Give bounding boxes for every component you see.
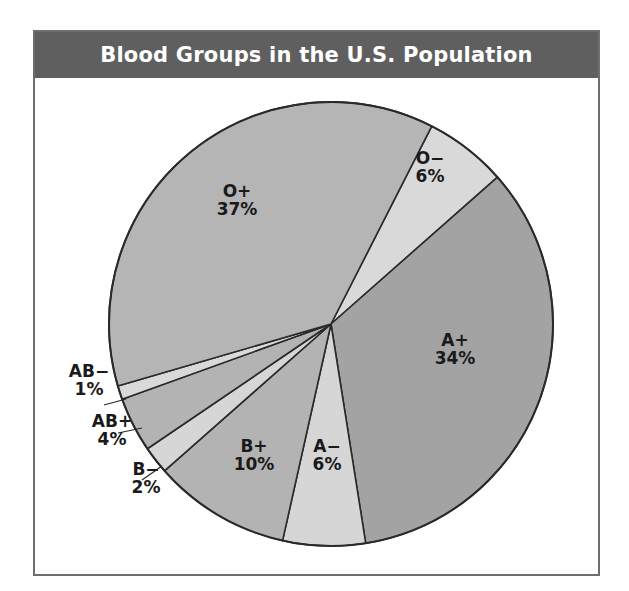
slice-label: AB+	[92, 411, 132, 431]
slice-label: AB−	[69, 361, 109, 381]
slice-label: A−	[313, 436, 340, 456]
slice-percent: 4%	[98, 429, 127, 449]
pie-slices	[109, 102, 553, 546]
slice-percent: 1%	[75, 379, 104, 399]
slice-label: B+	[240, 436, 267, 456]
slice-percent: 10%	[234, 454, 275, 474]
slice-percent: 6%	[416, 166, 445, 186]
slice-label: O+	[223, 181, 252, 201]
slice-percent: 6%	[313, 454, 342, 474]
slice-label: A+	[441, 330, 468, 350]
slice-percent: 34%	[435, 348, 476, 368]
pie-chart: O−6%A+34%A−6%B+10%B−2%AB+4%AB−1%O+37%	[0, 0, 629, 591]
slice-label: O−	[416, 148, 445, 168]
slice-percent: 2%	[132, 477, 161, 497]
slice-label: B−	[132, 459, 159, 479]
slice-percent: 37%	[217, 199, 258, 219]
